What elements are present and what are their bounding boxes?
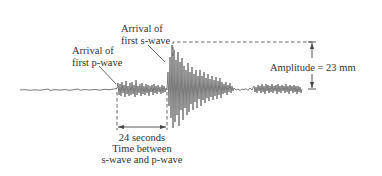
s-wave-trace [167,45,302,128]
baseline-trace [20,89,117,91]
interval-seconds-label: 24 seconds [119,132,165,143]
interval-arrowhead-left-icon [118,125,124,129]
amplitude-arrowhead-up-icon [310,43,314,49]
amplitude-arrowhead-down-icon [310,82,314,88]
interval-arrowhead-right-icon [160,125,166,129]
p-wave-label-line2: first p-wave [72,57,123,68]
s-wave-leader-line [148,45,165,62]
p-wave-leader-line [99,66,116,84]
p-wave-label-line1: Arrival of [72,45,114,56]
interval-caption-line2: s-wave and p-wave [101,154,182,165]
seismogram-diagram: Arrival of first p-wave Arrival of first… [0,0,382,176]
s-wave-label-line1: Arrival of [121,23,163,34]
interval-caption-line1: Time between [112,143,172,154]
p-wave-trace [117,80,167,97]
amplitude-peak-dashed-line [173,42,313,56]
s-wave-label-line2: first s-wave [121,35,171,46]
amplitude-label: Amplitude = 23 mm [270,62,356,73]
